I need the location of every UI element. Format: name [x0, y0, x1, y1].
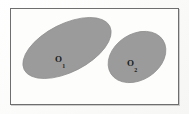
label-o1-base: O [55, 54, 62, 64]
figure-canvas: O1 O2 [0, 0, 189, 114]
label-o2-base: O [127, 58, 134, 68]
ellipse-o1 [13, 5, 120, 91]
shapes-layer [0, 0, 189, 114]
label-o2-subscript: 2 [134, 67, 137, 73]
label-o2: O2 [127, 53, 137, 71]
label-o1: O1 [55, 49, 65, 67]
label-o1-subscript: 1 [62, 63, 65, 69]
